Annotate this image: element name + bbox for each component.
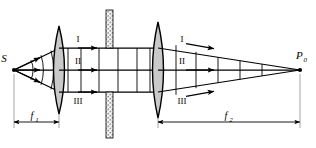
barrier-lower-blade xyxy=(106,92,113,138)
zone-label-top-left: I xyxy=(77,34,80,44)
zone-label-middle-right: II xyxy=(179,56,185,66)
dimension-subscript-f1: 1 xyxy=(35,116,39,124)
zone-label-bottom-right: III xyxy=(178,96,187,106)
source-point-label: S xyxy=(1,52,7,64)
optics-diagram-figure: S xyxy=(0,0,316,148)
zone-label-middle-left: II xyxy=(75,56,81,66)
zone-label-bottom-left: III xyxy=(74,96,83,106)
dimension-subscript-f2: 2 xyxy=(229,116,233,124)
image-point-subscript: 0 xyxy=(304,56,308,64)
image-point-label: P xyxy=(295,49,303,61)
zone-label-top-right: I xyxy=(181,34,184,44)
image-point-marker xyxy=(298,68,302,72)
source-point-marker xyxy=(12,68,16,72)
barrier-upper-blade xyxy=(106,10,113,48)
optics-diagram-canvas: S xyxy=(0,0,316,148)
